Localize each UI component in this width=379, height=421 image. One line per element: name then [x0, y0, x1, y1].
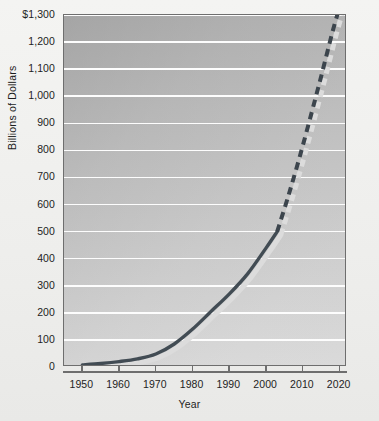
x-axis-tick-mark: [339, 366, 340, 373]
x-axis-tick-mark: [302, 366, 303, 373]
y-axis-tick-label: 1,200: [28, 35, 55, 47]
plot-area: [63, 14, 346, 366]
x-axis-tick-marks: [63, 366, 346, 376]
y-axis-title: Billions of Dollars: [6, 66, 18, 150]
x-axis-tick-label: 2000: [253, 378, 277, 390]
y-axis-tick-label: 600: [37, 198, 55, 210]
x-axis-tick-label: 2010: [290, 378, 314, 390]
x-axis-tick-mark: [228, 366, 229, 373]
y-axis-tick-label: $1,300: [22, 8, 55, 20]
actual-line-shadow: [86, 235, 281, 366]
y-axis-tick-label: 500: [37, 225, 55, 237]
y-axis-tick-label: 1,100: [28, 62, 55, 74]
x-axis-tick-mark: [265, 366, 266, 373]
x-axis-tick-mark: [155, 366, 156, 373]
y-axis-tick-label: 200: [37, 306, 55, 318]
x-axis-tick-mark: [81, 366, 82, 373]
data-series-layer: [64, 15, 346, 366]
y-axis-tick-label: 1,000: [28, 89, 55, 101]
y-axis-tick-label: 300: [37, 279, 55, 291]
y-axis-tick-label: 0: [49, 360, 55, 372]
x-axis-tick-label: 1970: [143, 378, 167, 390]
x-axis-tick-label: 1990: [216, 378, 240, 390]
y-axis-tick-label: 100: [37, 333, 55, 345]
x-axis-tick-label: 2020: [327, 378, 351, 390]
y-axis-tick-label: 700: [37, 170, 55, 182]
x-axis-tick-label: 1960: [106, 378, 130, 390]
x-axis-tick-label: 1980: [180, 378, 204, 390]
y-axis-tick-label: 400: [37, 252, 55, 264]
chart-container: 01002003004005006007008009001,0001,1001,…: [0, 0, 379, 421]
x-axis-tick-mark: [192, 366, 193, 373]
y-axis-tick-label: 900: [37, 116, 55, 128]
projected-line-shadow: [281, 15, 343, 235]
x-axis-title: Year: [0, 398, 379, 410]
x-axis-tick-labels: 19501960197019801990200020102020: [0, 378, 379, 394]
x-axis-tick-mark: [118, 366, 119, 373]
y-axis-tick-label: 800: [37, 143, 55, 155]
x-axis-tick-label: 1950: [69, 378, 93, 390]
